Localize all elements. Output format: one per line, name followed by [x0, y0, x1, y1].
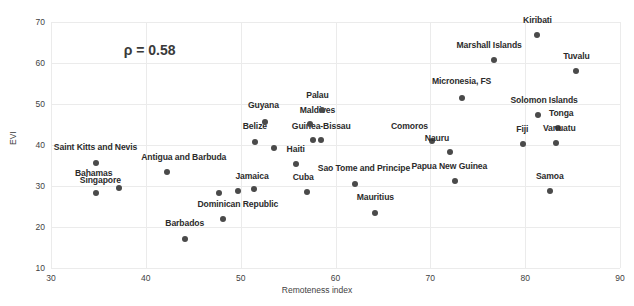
data-point [352, 181, 358, 187]
data-point [318, 137, 324, 143]
data-point-label: Vanuatu [543, 123, 576, 133]
data-point [262, 119, 268, 125]
data-point-label: Haiti [287, 144, 305, 154]
data-point-label: Papua New Guinea [411, 161, 487, 171]
data-point [491, 57, 497, 63]
data-point-label: Saint Kitts and Nevis [54, 142, 137, 152]
y-axis-tick-label: 10 [23, 263, 45, 273]
gridline-vertical [620, 22, 621, 268]
data-point-label: Nauru [425, 133, 449, 143]
data-point [235, 188, 241, 194]
x-axis-tick-label: 50 [236, 273, 245, 283]
gridline-horizontal [51, 268, 620, 269]
data-point [319, 107, 325, 113]
data-point-label: Tonga [549, 108, 574, 118]
data-point [307, 121, 313, 127]
x-axis-tick-label: 60 [331, 273, 340, 283]
plot-area: Saint Kitts and NevisBahamasSingaporeAnt… [51, 22, 620, 268]
data-point-label: Fiji [516, 124, 528, 134]
data-point [220, 216, 226, 222]
x-axis-tick-label: 30 [46, 273, 55, 283]
data-point-label: Sao Tome and Principe [318, 163, 410, 173]
x-axis-tick-label: 90 [615, 273, 624, 283]
data-point [459, 95, 465, 101]
data-point-label: Mauritius [357, 192, 394, 202]
data-point [573, 68, 579, 74]
data-point [447, 149, 453, 155]
data-point [534, 32, 540, 38]
y-axis-tick-label: 60 [23, 58, 45, 68]
x-axis-tick-label: 70 [426, 273, 435, 283]
gridline-horizontal [51, 63, 620, 64]
data-point [547, 188, 553, 194]
y-axis-tick-label: 40 [23, 140, 45, 150]
data-point [271, 145, 277, 151]
data-point [372, 210, 378, 216]
data-point [304, 189, 310, 195]
data-point [164, 169, 170, 175]
data-point [310, 137, 316, 143]
data-point-label: Marshall Islands [456, 40, 521, 50]
x-axis-title: Remoteness index [0, 285, 634, 295]
data-point-label: Jamaica [235, 171, 268, 181]
data-point [216, 190, 222, 196]
data-point-label: Cuba [293, 172, 314, 182]
x-axis-tick-label: 40 [141, 273, 150, 283]
y-axis-tick-label: 30 [23, 181, 45, 191]
data-point-label: Solomon Islands [510, 95, 577, 105]
data-point-label: Antigua and Barbuda [141, 152, 226, 162]
data-point [252, 139, 258, 145]
data-point-label: Guyana [248, 100, 279, 110]
data-point-label: Maldives [300, 105, 336, 115]
scatter-chart: EVI Remoteness index Saint Kitts and Nev… [0, 0, 634, 306]
data-point-label: Barbados [165, 218, 204, 228]
data-point [251, 186, 257, 192]
data-point-label: Singapore [80, 175, 121, 185]
data-point [452, 178, 458, 184]
data-point-label: Tuvalu [563, 51, 589, 61]
gridline-horizontal [51, 227, 620, 228]
gridline-horizontal [51, 186, 620, 187]
data-point-label: Comoros [391, 121, 428, 131]
data-point [116, 185, 122, 191]
y-axis-tick-label: 20 [23, 222, 45, 232]
x-axis-tick-label: 80 [520, 273, 529, 283]
data-point-label: Samoa [536, 171, 564, 181]
data-point-label: Micronesia, FS [432, 76, 491, 86]
y-axis-tick-label: 50 [23, 99, 45, 109]
data-point [93, 160, 99, 166]
data-point [182, 236, 188, 242]
data-point-label: Dominican Republic [197, 199, 278, 209]
data-point [535, 112, 541, 118]
data-point-label: Palau [306, 90, 328, 100]
data-point-label: Guinea-Bissau [292, 121, 351, 131]
data-point [293, 161, 299, 167]
y-axis-title: EVI [8, 131, 18, 145]
y-axis-tick-label: 70 [23, 17, 45, 27]
correlation-annotation: ρ = 0.58 [124, 42, 176, 58]
data-point-label: Kiribati [523, 15, 552, 25]
data-point [93, 190, 99, 196]
